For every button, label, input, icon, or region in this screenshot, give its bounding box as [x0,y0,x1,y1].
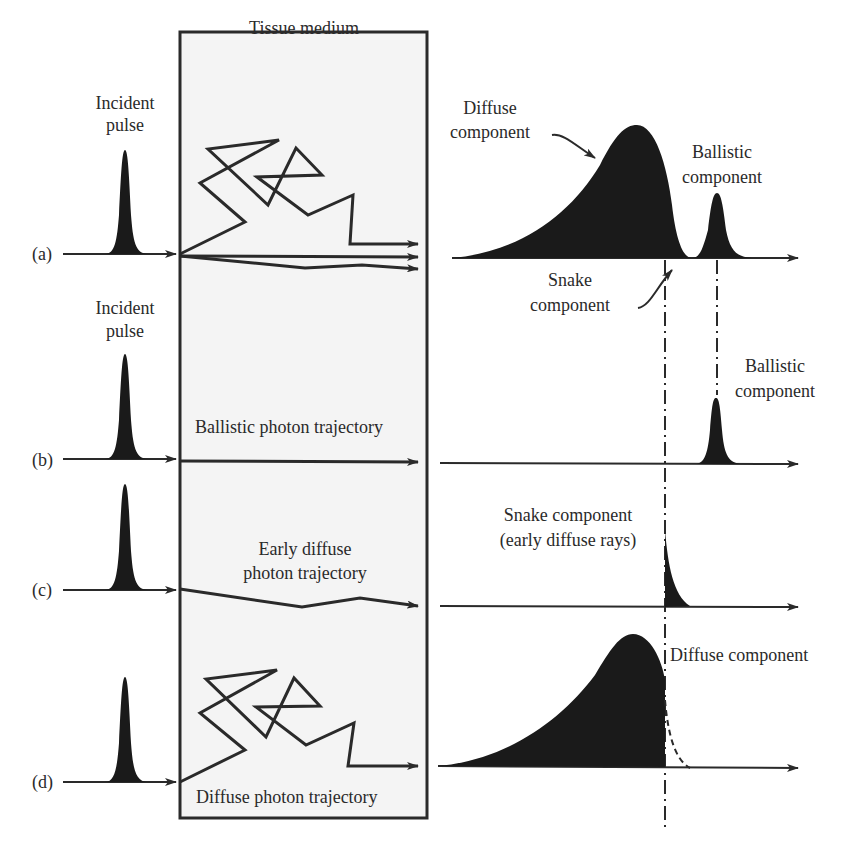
output-axis-b [440,463,798,464]
snake-label-c-line1: Snake component [478,505,658,526]
incident-label-b-line2: pulse [80,321,170,342]
diffuse-callout-arrow [552,135,595,158]
ballistic-trajectory-a [180,256,418,257]
ballistic-trajectory-label: Ballistic photon trajectory [195,417,383,438]
incident-pulse-b [105,354,148,459]
incident-pulse-d [105,677,148,782]
incident-label-a-line2: pulse [80,115,170,136]
ballistic-label-b-line2: component [725,381,825,402]
ballistic-trajectory-b [180,461,418,462]
row-c [63,484,798,607]
early-diffuse-label-line2: photon trajectory [220,563,390,584]
snake-peak-c [665,530,690,607]
early-diffuse-label-line1: Early diffuse [220,539,390,560]
incident-pulse-c [105,484,148,590]
row-label-d: (d) [32,772,53,793]
ballistic-label-a-line2: component [672,167,772,188]
row-label-a: (a) [32,244,52,265]
ballistic-label-a-line1: Ballistic [672,142,772,163]
snake-label-a-line2: component [520,295,620,316]
incident-pulse-a [105,150,148,254]
diffuse-hump-d [438,634,665,767]
diffuse-label-d: Diffuse component [670,645,808,666]
output-axis-c [440,606,798,607]
snake-label-c-line2: (early diffuse rays) [478,530,658,551]
row-b [63,354,798,464]
tissue-medium-label: Tissue medium [234,18,374,39]
incident-label-b-line1: Incident [80,298,170,319]
incident-label-a-line1: Incident [80,93,170,114]
diffuse-label-a-line1: Diffuse [440,98,540,119]
ballistic-peak-b [697,398,740,464]
row-label-b: (b) [32,450,53,471]
diffuse-tail-dashed [665,700,690,768]
snake-callout-arrow [638,270,672,308]
diffuse-label-a-line2: component [440,122,540,143]
diffuse-trajectory-label: Diffuse photon trajectory [196,787,378,808]
ballistic-label-b-line1: Ballistic [725,356,825,377]
snake-label-a-line1: Snake [520,270,620,291]
row-label-c: (c) [32,580,52,601]
